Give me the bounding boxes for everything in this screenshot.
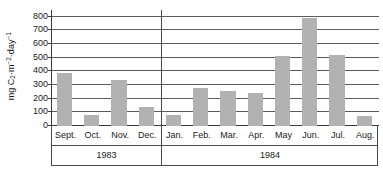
y-tick-label-600: 600 [22,39,48,48]
bar-slot [243,10,270,126]
year-group-divider-plot [161,10,162,126]
x-tick-label-mar: Mar. [216,130,243,140]
x-tick-label-nov: Nov. [107,130,134,140]
y-tick-label-700: 700 [22,25,48,34]
bar-sept [57,73,72,126]
bar-slot [352,10,379,126]
bar-slot [188,10,215,126]
bar-slot [79,10,106,126]
bar-chart-figure: mg C2·m−2·day−1 010020030040050060070080… [0,0,383,172]
bar-feb [193,88,208,126]
year-group-divider [161,126,162,165]
x-tick-label-aug: Aug. [352,130,379,140]
x-tick-label-jul: Jul. [325,130,352,140]
y-tick-label-200: 200 [22,94,48,103]
x-axis-label-band: Sept.Oct.Nov.Dec.Jan.Feb.Mar.Apr.MayJun.… [51,126,378,166]
x-tick-label-may: May [270,130,297,140]
bar-oct [84,115,99,126]
month-label-row: Sept.Oct.Nov.Dec.Jan.Feb.Mar.Apr.MayJun.… [52,126,377,145]
y-tick-label-400: 400 [22,66,48,75]
bar-jul [329,55,344,126]
bar-slot [107,10,134,126]
year-label-row: 19831984 [52,145,377,165]
plot-area [51,10,379,126]
y-axis-title-c-subscript: 2 [9,75,16,79]
bar-apr [248,93,263,126]
year-group-label-1983: 1983 [52,150,161,160]
bar-slot [216,10,243,126]
x-tick-label-sept: Sept. [52,130,79,140]
bar-aug [357,116,372,126]
bars-layer [52,10,379,126]
bar-jan [166,115,181,126]
bar-slot [325,10,352,126]
bar-dec [139,107,154,126]
bar-nov [111,80,126,126]
bar-mar [220,91,235,126]
y-tick-label-500: 500 [22,53,48,62]
x-tick-label-feb: Feb. [188,130,215,140]
x-tick-label-jan: Jan. [161,130,188,140]
y-axis-title-mid2: ·day [6,39,16,57]
y-tick-label-0: 0 [22,121,48,130]
y-axis-title: mg C2·m−2·day−1 [0,0,22,132]
x-tick-label-jun: Jun. [297,130,324,140]
bar-slot [52,10,79,126]
y-axis-title-prefix: mg C [6,78,16,100]
bar-slot [297,10,324,126]
y-axis-tick-labels: 0100200300400500600700800 [22,10,48,126]
y-tick-label-800: 800 [22,12,48,21]
y-axis-title-mid: ·m [6,64,16,75]
bar-slot [161,10,188,126]
bar-slot [134,10,161,126]
y-tick-label-100: 100 [22,107,48,116]
bar-jun [302,18,317,126]
bar-may [275,56,290,126]
x-tick-label-apr: Apr. [243,130,270,140]
x-tick-label-dec: Dec. [134,130,161,140]
y-axis-title-day-exponent: −1 [5,32,12,39]
y-tick-label-300: 300 [22,80,48,89]
year-group-label-1984: 1984 [161,150,379,160]
y-axis-title-m-exponent: −2 [5,57,12,64]
x-tick-label-oct: Oct. [79,130,106,140]
y-axis-title-text: mg C2·m−2·day−1 [6,32,16,100]
bar-slot [270,10,297,126]
